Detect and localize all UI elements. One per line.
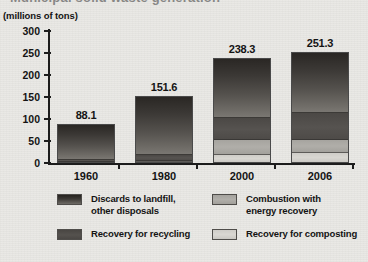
- bar-segment-recycling[interactable]: [58, 160, 114, 162]
- legend-swatch-combustion: [212, 194, 237, 205]
- x-axis-tick-label: 1980: [129, 170, 199, 182]
- chart-figure: Municipal solid waste generation (millio…: [0, 0, 368, 262]
- x-axis-line: [48, 163, 355, 165]
- legend-label: Discards to landfill, other disposals: [91, 193, 175, 216]
- stacked-bar[interactable]: [135, 96, 193, 163]
- bar-value-label: 251.3: [280, 37, 360, 49]
- bar-segment-combustion[interactable]: [136, 161, 192, 162]
- bar-value-label: 88.1: [46, 109, 126, 121]
- bar-segment-discards[interactable]: [214, 59, 270, 117]
- x-axis-tick: [196, 165, 198, 169]
- x-axis-tick: [352, 165, 354, 169]
- stacked-bar[interactable]: [213, 58, 271, 163]
- legend-label: Recovery for recycling: [91, 228, 190, 240]
- legend-item-recycling[interactable]: Recovery for recycling: [57, 228, 190, 240]
- bar-segment-discards[interactable]: [292, 53, 348, 112]
- bar-segment-combustion[interactable]: [292, 140, 348, 154]
- legend-label: Combustion with energy recovery: [246, 193, 321, 216]
- legend-item-composting[interactable]: Recovery for composting: [212, 228, 357, 240]
- legend-swatch-discards: [57, 194, 82, 205]
- bar-segment-recycling[interactable]: [292, 113, 348, 140]
- legend-item-discards[interactable]: Discards to landfill, other disposals: [57, 193, 175, 216]
- bar-group[interactable]: [57, 0, 115, 163]
- bar-segment-recycling[interactable]: [214, 118, 270, 141]
- x-axis-tick-label: 2006: [285, 170, 355, 182]
- x-axis-tick-label: 1960: [51, 170, 121, 182]
- bar-segment-composting[interactable]: [214, 155, 270, 162]
- stacked-bar[interactable]: [291, 52, 349, 163]
- bar-group[interactable]: [291, 0, 349, 163]
- x-axis-tick: [274, 165, 276, 169]
- bar-segment-discards[interactable]: [58, 125, 114, 159]
- bar-segment-composting[interactable]: [292, 153, 348, 162]
- legend-item-combustion[interactable]: Combustion with energy recovery: [212, 193, 321, 216]
- bar-segment-discards[interactable]: [136, 97, 192, 154]
- legend-swatch-composting: [212, 229, 237, 240]
- plot-area: 300250200150100500 1960198020002006 88.1…: [0, 0, 368, 185]
- bar-value-label: 151.6: [124, 81, 204, 93]
- bar-segment-combustion[interactable]: [214, 140, 270, 155]
- legend-label: Recovery for composting: [246, 228, 357, 240]
- x-axis-tick-label: 2000: [207, 170, 277, 182]
- chart-legend: Discards to landfill, other disposalsCom…: [0, 191, 368, 262]
- legend-swatch-recycling: [57, 229, 82, 240]
- x-axis-tick: [118, 165, 120, 169]
- stacked-bar[interactable]: [57, 124, 115, 163]
- bar-group[interactable]: [213, 0, 271, 163]
- bar-value-label: 238.3: [202, 43, 282, 55]
